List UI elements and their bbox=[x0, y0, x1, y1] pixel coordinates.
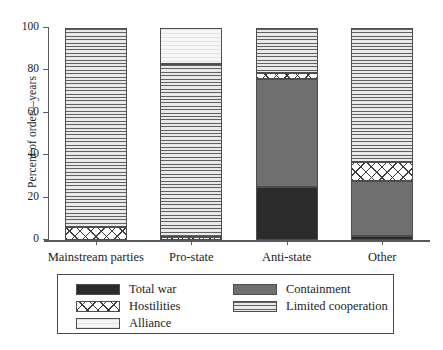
y-tick-80: 80 bbox=[43, 69, 49, 70]
x-axis-line bbox=[44, 240, 430, 242]
legend-label-total_war: Total war bbox=[129, 282, 176, 297]
bar-segment-alliance[interactable] bbox=[160, 28, 222, 64]
legend-label-containment: Containment bbox=[286, 282, 351, 297]
legend-swatch-alliance bbox=[76, 318, 120, 329]
y-tick-label-40: 40 bbox=[28, 146, 40, 161]
y-tick-label-0: 0 bbox=[33, 231, 39, 246]
legend-column-right: ContainmentLimited cooperation bbox=[233, 281, 388, 315]
x-tick-1 bbox=[191, 240, 192, 245]
legend-swatch-containment bbox=[233, 284, 277, 295]
legend-item-limited_cooperation[interactable]: Limited cooperation bbox=[233, 298, 388, 314]
y-tick-0: 0 bbox=[43, 239, 49, 240]
y-tick-label-20: 20 bbox=[28, 189, 40, 204]
chart-legend: Total warHostilitiesAlliance Containment… bbox=[57, 274, 394, 334]
legend-swatch-total_war bbox=[76, 284, 120, 295]
bar-segment-containment[interactable] bbox=[256, 79, 318, 187]
y-tick-label-60: 60 bbox=[28, 104, 40, 119]
legend-column-left: Total warHostilitiesAlliance bbox=[76, 281, 180, 332]
x-tick-0 bbox=[96, 240, 97, 245]
bar-segment-total_war[interactable] bbox=[256, 187, 318, 240]
bar-anti-state[interactable] bbox=[256, 28, 318, 240]
x-tick-3 bbox=[382, 240, 383, 245]
bar-segment-hostilities[interactable] bbox=[65, 227, 127, 240]
category-label-other: Other bbox=[302, 250, 443, 265]
x-tick-2 bbox=[287, 240, 288, 245]
legend-item-total_war[interactable]: Total war bbox=[76, 281, 180, 297]
legend-item-hostilities[interactable]: Hostilities bbox=[76, 298, 180, 314]
bar-segment-containment[interactable] bbox=[351, 181, 413, 236]
bar-segment-limited_cooperation[interactable] bbox=[65, 28, 127, 227]
bar-mainstream-parties[interactable] bbox=[65, 28, 127, 240]
y-tick-20: 20 bbox=[43, 197, 49, 198]
stacked-bar-chart: Percent of order—years 020406080100 Main… bbox=[0, 0, 443, 350]
y-tick-100: 100 bbox=[43, 27, 49, 28]
bar-pro-state[interactable] bbox=[160, 28, 222, 240]
bar-segment-hostilities[interactable] bbox=[351, 162, 413, 181]
y-tick-label-80: 80 bbox=[28, 61, 40, 76]
legend-label-alliance: Alliance bbox=[129, 316, 171, 331]
bar-segment-limited_cooperation[interactable] bbox=[256, 28, 318, 73]
bar-segment-hostilities[interactable] bbox=[256, 73, 318, 79]
plot-area: 020406080100 bbox=[48, 28, 430, 242]
legend-label-hostilities: Hostilities bbox=[129, 299, 180, 314]
y-tick-60: 60 bbox=[43, 112, 49, 113]
bar-segment-limited_cooperation[interactable] bbox=[351, 28, 413, 162]
y-tick-40: 40 bbox=[43, 154, 49, 155]
y-tick-label-100: 100 bbox=[22, 19, 39, 34]
legend-swatch-limited_cooperation bbox=[233, 301, 277, 312]
legend-item-containment[interactable]: Containment bbox=[233, 281, 388, 297]
bar-segment-limited_cooperation[interactable] bbox=[160, 64, 222, 237]
legend-item-alliance[interactable]: Alliance bbox=[76, 315, 180, 331]
bar-other[interactable] bbox=[351, 28, 413, 240]
y-axis-line bbox=[48, 28, 49, 242]
legend-swatch-hostilities bbox=[76, 301, 120, 312]
legend-label-limited_cooperation: Limited cooperation bbox=[286, 299, 388, 314]
